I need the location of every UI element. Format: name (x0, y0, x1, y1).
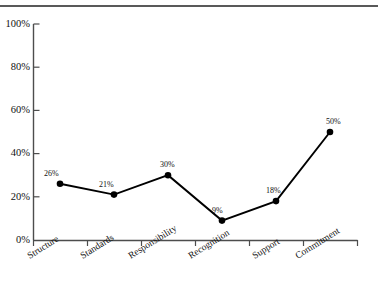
data-point-marker (273, 198, 280, 205)
data-label-recognition: 9% (212, 207, 223, 215)
data-label-responsibility: 30% (160, 161, 175, 169)
series-line (60, 132, 330, 221)
data-point-marker (111, 191, 118, 198)
data-point-marker (327, 129, 334, 136)
data-point-marker (57, 181, 64, 188)
chart-figure: 100% 80% 60% 40% 20% 0% 26% 21% 30% (0, 0, 378, 308)
data-label-commitment: 50% (326, 118, 341, 126)
data-label-structure: 26% (44, 170, 59, 178)
data-label-standards: 21% (99, 181, 114, 189)
data-point-marker (165, 172, 172, 179)
data-point-marker (219, 217, 226, 224)
data-label-support: 18% (266, 187, 281, 195)
plot-area (0, 0, 378, 308)
